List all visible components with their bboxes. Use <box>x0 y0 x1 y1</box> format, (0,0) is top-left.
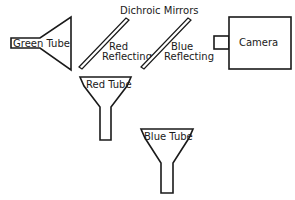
red-mirror-label-line2: Reflecting <box>102 51 152 62</box>
green-tube-label: Green Tube <box>13 38 70 49</box>
blue-tube-label: Blue Tube <box>144 131 193 142</box>
blue-reflecting-mirror: Blue Reflecting <box>141 18 214 69</box>
blue-tube: Blue Tube <box>141 129 193 193</box>
camera-label: Camera <box>239 37 278 48</box>
green-tube: Green Tube <box>11 17 71 70</box>
red-reflecting-mirror: Red Reflecting <box>79 18 152 69</box>
camera: Camera <box>214 17 291 69</box>
red-tube: Red Tube <box>80 77 132 140</box>
camera-lens <box>214 36 229 49</box>
blue-mirror-label-line2: Reflecting <box>164 51 214 62</box>
red-tube-label: Red Tube <box>86 79 132 90</box>
color-tv-camera-diagram: Green Tube Dichroic Mirrors Red Reflecti… <box>0 0 295 200</box>
diagram-title: Dichroic Mirrors <box>120 5 198 16</box>
